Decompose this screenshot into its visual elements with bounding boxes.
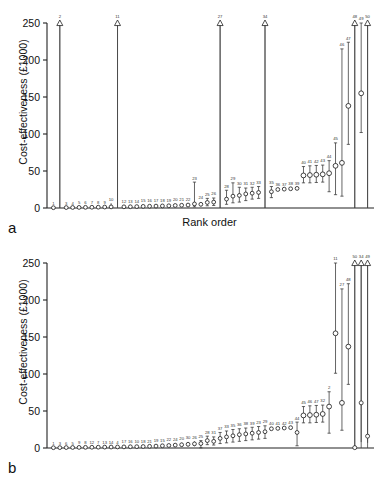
rank-label: 30 (237, 181, 242, 186)
point-marker (52, 446, 56, 450)
point-marker (327, 404, 332, 409)
rank-label: 9 (104, 200, 107, 205)
rank-label: 23 (256, 420, 261, 425)
point-marker (282, 426, 286, 430)
rank-label: 21 (147, 439, 152, 444)
point-marker (122, 205, 126, 209)
rank-label: 46 (308, 399, 313, 404)
rank-label: 47 (346, 36, 351, 41)
point-marker (301, 173, 306, 178)
rank-label: 39 (295, 181, 300, 186)
panel-a-letter: a (8, 219, 16, 236)
point-marker (103, 205, 107, 209)
rank-label: 48 (346, 277, 351, 282)
point-marker (148, 204, 152, 208)
point-marker (282, 187, 286, 191)
rank-label: 22 (166, 437, 171, 442)
point-marker (141, 204, 145, 208)
data-point-group: 15 (160, 438, 165, 448)
rank-label: 11 (115, 14, 120, 19)
rank-label: 40 (301, 160, 306, 165)
rank-label: 45 (333, 136, 338, 141)
point-marker (90, 205, 94, 209)
point-marker (52, 206, 56, 210)
point-marker (212, 200, 216, 204)
point-marker (257, 431, 261, 435)
point-marker (103, 445, 107, 449)
data-point-group: 14 (109, 440, 114, 449)
rank-label: 38 (288, 181, 293, 186)
rank-label: 6 (65, 441, 68, 446)
rank-label: 44 (327, 154, 332, 159)
rank-label: 24 (199, 195, 204, 200)
data-point-group: 39 (295, 181, 300, 190)
point-marker (359, 401, 363, 405)
point-marker (77, 206, 81, 210)
rank-label: 7 (97, 440, 100, 445)
data-point-group: 1 (52, 201, 56, 210)
point-marker (333, 163, 338, 168)
rank-label: 33 (224, 424, 229, 429)
data-point-group: 29 (263, 419, 268, 438)
data-point-group: 42 (314, 159, 319, 183)
data-point-group: 12 (90, 440, 95, 449)
data-point-group: 12 (122, 199, 127, 208)
data-point-group: 33 (224, 424, 229, 442)
data-point-group: 9 (77, 440, 81, 449)
data-point-group: 2 (327, 385, 332, 433)
data-point-group: 11 (115, 14, 121, 209)
data-point-group: 10 (109, 197, 114, 209)
data-point-group: 28 (224, 184, 229, 205)
data-point-group: 38 (243, 421, 248, 440)
data-point-group: 46 (307, 399, 312, 423)
point-marker (193, 202, 197, 206)
data-point-group: 44 (295, 416, 300, 446)
data-point-group: 5 (71, 441, 75, 450)
point-marker (180, 203, 184, 207)
rank-label: 24 (173, 437, 178, 442)
point-marker (199, 202, 203, 206)
rank-label: 2 (59, 14, 62, 19)
data-point-group: 20 (179, 436, 184, 447)
data-point-group: 27 (217, 14, 223, 209)
data-point-group: 18 (141, 439, 146, 449)
data-point-group: 23 (256, 420, 261, 439)
data-point-group: 43 (288, 420, 293, 429)
data-point-group: 49 (365, 254, 371, 449)
data-point-group: 21 (147, 439, 152, 449)
point-marker (270, 190, 274, 194)
rank-label: 16 (128, 439, 133, 444)
point-marker (71, 206, 75, 210)
data-point-group: 17 (154, 198, 159, 208)
data-point-group: 47 (346, 36, 351, 145)
data-point-group: 31 (211, 430, 216, 445)
point-marker (96, 445, 100, 449)
offscale-triangle-marker (365, 260, 371, 266)
rank-label: 7 (91, 200, 94, 205)
rank-label: 1 (52, 201, 55, 206)
rank-label: 46 (340, 42, 345, 47)
data-point-group: 25 (199, 434, 204, 448)
rank-label: 40 (269, 421, 274, 426)
figure-root: Cost-effectiveness (£1000) 0501001502002… (0, 0, 383, 480)
point-marker (295, 431, 299, 435)
point-marker (84, 445, 88, 449)
data-point-group: 2 (57, 14, 63, 209)
data-point-group: 16 (128, 439, 133, 448)
rank-label: 45 (301, 400, 306, 405)
point-marker (173, 204, 177, 208)
data-point-group: 30 (237, 181, 242, 202)
panel-a-plot: 0501001502002501234567891011121314151617… (0, 0, 383, 240)
point-marker (231, 434, 235, 438)
data-point-group: 10 (134, 439, 139, 448)
point-marker (314, 412, 319, 417)
rank-label: 34 (263, 14, 268, 19)
data-point-group: 37 (282, 182, 287, 191)
rank-label: 47 (314, 399, 319, 404)
rank-label: 20 (173, 197, 178, 202)
rank-label: 32 (250, 181, 255, 186)
rank-label: 3 (59, 441, 62, 446)
point-marker (320, 412, 325, 417)
rank-label: 9 (78, 440, 81, 445)
data-point-group: 40 (301, 160, 306, 183)
